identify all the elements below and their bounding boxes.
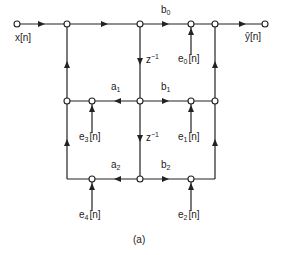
arrow-right-icon: [162, 176, 169, 182]
arrow-up-icon: [64, 139, 70, 146]
arrow-up-icon: [89, 183, 95, 190]
coef-a1: a1: [111, 81, 121, 93]
arrow-left-icon: [114, 98, 121, 104]
arrow-right-icon: [239, 21, 246, 27]
signal-flow-graph: x[n] ŷ[n] b0 b1 b2 a1 a2 z−1 z−1 e0[n] e…: [0, 0, 282, 255]
node: [137, 21, 143, 27]
arrow-up-icon: [89, 105, 95, 112]
delay-z2: z−1: [146, 131, 159, 143]
coef-b1: b1: [161, 81, 171, 93]
node: [89, 176, 95, 182]
arrow-up-icon: [188, 105, 194, 112]
noise-e2: e2[n]: [178, 209, 200, 221]
arrow-down-icon: [137, 58, 143, 65]
arrow-right-icon: [162, 21, 169, 27]
node: [64, 21, 70, 27]
arrow-right-icon: [101, 21, 108, 27]
node: [137, 176, 143, 182]
delay-z1: z−1: [146, 53, 159, 65]
arrow-up-icon: [188, 28, 194, 35]
noise-e1: e1[n]: [178, 131, 200, 143]
coef-b2: b2: [161, 159, 171, 171]
figure-caption: (a): [133, 234, 145, 245]
arrow-up-icon: [212, 61, 218, 68]
node: [188, 21, 194, 27]
noise-e0: e0[n]: [178, 53, 200, 65]
coef-a2: a2: [111, 159, 121, 171]
arrow-right-icon: [38, 21, 45, 27]
arrow-left-icon: [114, 176, 121, 182]
arrow-down-icon: [137, 135, 143, 142]
arrow-up-icon: [64, 61, 70, 68]
arrow-up-icon: [188, 183, 194, 190]
arrow-right-icon: [162, 98, 169, 104]
noise-e4: e4[n]: [79, 209, 101, 221]
noise-e3: e3[n]: [79, 131, 101, 143]
coef-b0: b0: [161, 4, 171, 16]
node: [137, 98, 143, 104]
node: [212, 98, 218, 104]
node: [188, 176, 194, 182]
node: [89, 98, 95, 104]
node-input: [14, 21, 20, 27]
output-label: ŷ[n]: [245, 31, 261, 42]
input-label: x[n]: [15, 32, 31, 43]
node-output: [262, 21, 268, 27]
node: [188, 98, 194, 104]
node: [212, 21, 218, 27]
node: [64, 98, 70, 104]
arrow-up-icon: [212, 139, 218, 146]
